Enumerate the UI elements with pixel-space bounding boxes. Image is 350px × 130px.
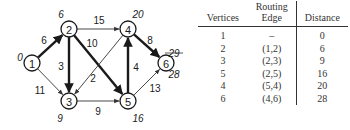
edge-weight-4-6: 8 bbox=[147, 35, 153, 46]
distance-label-6: 28 bbox=[167, 69, 180, 80]
cell-distance: 28 bbox=[296, 93, 348, 106]
distance-label-2: 6 bbox=[58, 9, 64, 20]
header-spacer bbox=[198, 1, 248, 12]
node-label-2: 2 bbox=[66, 24, 72, 36]
distance-label-1: 0 bbox=[17, 52, 23, 63]
cell-edge: – bbox=[248, 27, 296, 43]
cell-distance: 16 bbox=[296, 68, 348, 81]
routing-table-container: Routing Vertices Edge Distance 1 – 0 2 (… bbox=[198, 1, 348, 105]
edge-weight-2-5: 10 bbox=[86, 38, 98, 49]
cell-vertex: 1 bbox=[198, 27, 248, 43]
cell-edge: (4,6) bbox=[248, 93, 296, 106]
table-row: 4 (5,4) 20 bbox=[198, 80, 348, 93]
cell-distance: 20 bbox=[296, 80, 348, 93]
table-row: 6 (4,6) 28 bbox=[198, 93, 348, 106]
edge-weight-5-4: 4 bbox=[133, 62, 139, 73]
distance-label-5: 16 bbox=[132, 113, 144, 124]
cell-vertex: 5 bbox=[198, 68, 248, 81]
routing-table: Routing Vertices Edge Distance 1 – 0 2 (… bbox=[198, 1, 348, 105]
cell-distance: 9 bbox=[296, 55, 348, 68]
header-vertices: Vertices bbox=[198, 12, 248, 27]
node-label-5: 5 bbox=[125, 96, 131, 108]
table-row: 5 (2,5) 16 bbox=[198, 68, 348, 81]
edge-weight-5-6: 13 bbox=[149, 83, 161, 94]
edge-weight-2-3: 3 bbox=[58, 61, 64, 72]
shortest-path-graph: 61131510294813 123456 06920162829 bbox=[0, 0, 190, 130]
edge-weight-2-4: 15 bbox=[93, 15, 105, 26]
routing-table-body: 1 – 0 2 (1,2) 6 3 (2,3) 9 5 (2,5) 16 4 ( bbox=[198, 27, 348, 106]
edge-weight-3-5: 9 bbox=[95, 106, 101, 117]
cell-vertex: 4 bbox=[198, 80, 248, 93]
edge-2-5 bbox=[74, 35, 122, 94]
cell-edge: (2,5) bbox=[248, 68, 296, 81]
distance-label-3: 9 bbox=[57, 113, 63, 124]
edges-layer bbox=[38, 29, 160, 101]
cell-distance: 6 bbox=[296, 43, 348, 56]
cell-vertex: 6 bbox=[198, 93, 248, 106]
cell-edge: (1,2) bbox=[248, 43, 296, 56]
cell-distance: 0 bbox=[296, 27, 348, 43]
header-spacer bbox=[296, 1, 348, 12]
node-label-3: 3 bbox=[66, 96, 72, 108]
cell-vertex: 2 bbox=[198, 43, 248, 56]
distance-label-4: 20 bbox=[131, 9, 144, 20]
cell-edge: (2,3) bbox=[248, 55, 296, 68]
cell-vertex: 3 bbox=[198, 55, 248, 68]
header-routing-edge: Edge bbox=[248, 12, 296, 27]
cell-edge: (5,4) bbox=[248, 80, 296, 93]
header-distance: Distance bbox=[296, 12, 348, 27]
node-label-1: 1 bbox=[29, 58, 35, 70]
edge-weight-4-3: 2 bbox=[90, 73, 96, 84]
header-routing-top: Routing bbox=[248, 1, 296, 12]
edge-weight-1-2: 6 bbox=[41, 35, 47, 46]
node-label-4: 4 bbox=[125, 24, 131, 36]
table-row: 2 (1,2) 6 bbox=[198, 43, 348, 56]
table-row: 3 (2,3) 9 bbox=[198, 55, 348, 68]
table-row: 1 – 0 bbox=[198, 27, 348, 43]
edge-weight-1-3: 11 bbox=[35, 85, 46, 96]
